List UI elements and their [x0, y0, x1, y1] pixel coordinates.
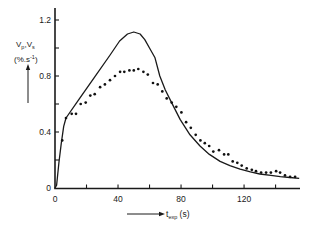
data-point — [208, 145, 211, 148]
data-point — [161, 90, 164, 93]
data-point — [185, 121, 188, 124]
y-tick-label: 0.4 — [39, 127, 51, 137]
data-point — [218, 149, 221, 152]
y-arrowhead-icon — [26, 64, 30, 70]
line-chart: 0408012000.40.81.2 Vp,Vs (%.s-1) texp (s… — [0, 0, 320, 232]
data-point — [175, 105, 178, 108]
data-point — [180, 111, 183, 114]
svg-text:texp (s): texp (s) — [166, 209, 190, 220]
series-layer — [55, 32, 299, 188]
x-tick-label: 0 — [53, 194, 58, 204]
data-point — [156, 83, 159, 86]
data-point — [123, 70, 126, 73]
data-point — [279, 171, 282, 174]
y-label-sub-s: s — [32, 44, 35, 50]
x-label-sub: exp — [168, 214, 177, 220]
axis-ticks — [55, 20, 276, 189]
x-axis-label: texp (s) — [127, 209, 190, 220]
x-arrowhead-icon — [159, 212, 165, 216]
data-point — [231, 160, 234, 163]
y-axis-label: Vp,Vs (%.s-1) — [14, 40, 38, 103]
data-point — [89, 94, 92, 97]
data-point — [203, 142, 206, 145]
data-point — [250, 168, 253, 171]
axis-tick-labels: 0408012000.40.81.2 — [39, 15, 251, 204]
data-point — [75, 112, 78, 115]
svg-text:Vp,Vs: Vp,Vs — [16, 40, 35, 50]
data-point — [294, 175, 297, 178]
y-tick-label: 0 — [46, 183, 51, 193]
data-point — [132, 69, 135, 72]
data-point — [240, 164, 243, 167]
data-point — [109, 79, 112, 82]
y-tick-label: 1.2 — [39, 15, 51, 25]
data-point — [61, 139, 64, 142]
data-point — [93, 93, 96, 96]
data-point — [236, 161, 239, 164]
y-label-units: (%.s — [14, 55, 30, 64]
svg-text:(%.s-1): (%.s-1) — [14, 54, 38, 64]
data-point — [189, 126, 192, 129]
data-point — [194, 133, 197, 136]
x-tick-label: 40 — [113, 194, 123, 204]
y-tick-label: 0.8 — [39, 71, 51, 81]
data-point — [284, 174, 287, 177]
data-point — [245, 167, 248, 170]
data-point — [212, 150, 215, 153]
data-point — [275, 170, 278, 173]
data-point — [99, 86, 102, 89]
data-point — [70, 112, 73, 115]
data-point — [65, 117, 68, 120]
data-point — [289, 175, 292, 178]
data-point — [119, 70, 122, 73]
data-point — [152, 82, 155, 85]
data-point — [265, 171, 268, 174]
data-point — [114, 75, 117, 78]
data-point — [104, 83, 107, 86]
series-line — [55, 32, 299, 188]
x-label-units: (s) — [177, 209, 189, 219]
data-point — [199, 139, 202, 142]
data-point — [137, 68, 140, 71]
data-point — [142, 70, 145, 73]
data-point — [79, 103, 82, 106]
y-label-units-close: ) — [35, 55, 38, 64]
data-point — [146, 73, 149, 76]
data-point — [84, 101, 87, 104]
data-point — [223, 153, 226, 156]
data-point — [170, 101, 173, 104]
data-point — [227, 153, 230, 156]
data-point — [255, 170, 258, 173]
data-point — [128, 69, 131, 72]
data-point — [260, 171, 263, 174]
data-point — [165, 97, 168, 100]
data-point — [270, 171, 273, 174]
x-tick-label: 120 — [237, 194, 251, 204]
x-tick-label: 80 — [176, 194, 186, 204]
